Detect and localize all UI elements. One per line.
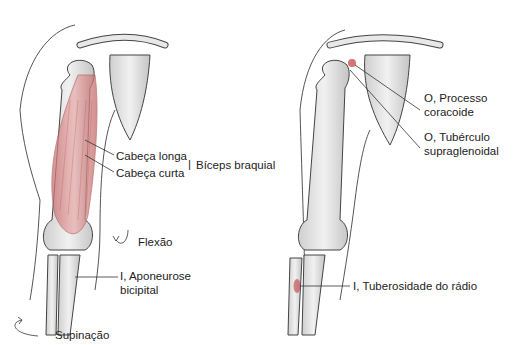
- label-flexion: Flexão: [138, 236, 173, 249]
- label-long-head: Cabeça longa: [116, 150, 187, 163]
- scapula: [110, 55, 150, 140]
- label-short-head: Cabeça curta: [116, 167, 184, 180]
- brace: |: [188, 158, 191, 171]
- label-biceps: Bíceps braquial: [196, 159, 275, 172]
- label-supination: Supinação: [55, 329, 109, 342]
- coracoid-highlight: [348, 59, 356, 67]
- label-coracoid-1: O, Processo: [424, 92, 487, 105]
- label-insertion-aponeurosis-1: I, Aponeurose: [120, 270, 191, 283]
- label-supraglenoid-2: supraglenoidal: [424, 145, 499, 158]
- radial-tuberosity-highlight: [294, 279, 301, 293]
- biceps-brachii: [52, 75, 97, 234]
- label-supraglenoid-1: O, Tubérculo: [424, 131, 490, 144]
- label-radial-tuberosity: I, Tuberosidade do rádio: [353, 280, 477, 293]
- label-coracoid-2: coracoide: [424, 106, 474, 119]
- label-insertion-aponeurosis-2: bicipital: [120, 284, 158, 297]
- anatomy-illustration: [0, 0, 513, 345]
